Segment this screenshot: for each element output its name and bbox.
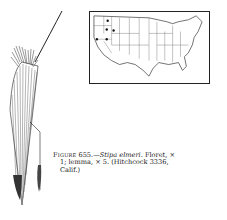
distribution-map	[89, 11, 210, 84]
caption-line-3: Calif.)	[53, 167, 225, 174]
figure-caption: Figure 655.—Stipa elmeri. Floret, × 1; l…	[53, 152, 225, 174]
floret-drawing	[0, 0, 80, 220]
grass-floret-illustration	[0, 0, 80, 220]
us-map-outline	[90, 12, 209, 83]
